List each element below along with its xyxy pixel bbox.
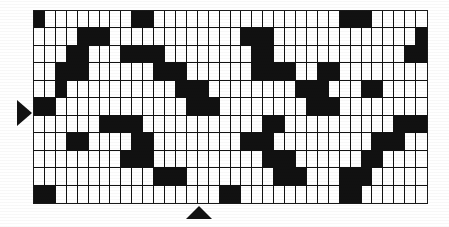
- grid-cell: [110, 116, 121, 133]
- grid-cell: [100, 28, 111, 45]
- grid-cell: [56, 46, 67, 63]
- grid-cell: [34, 98, 45, 115]
- grid-cell: [198, 81, 209, 98]
- grid-cell: [285, 168, 296, 185]
- grid-cell: [165, 186, 176, 203]
- grid-cell: [67, 11, 78, 28]
- grid-cell: [296, 133, 307, 150]
- grid-cell: [405, 186, 416, 203]
- grid-cell: [274, 11, 285, 28]
- grid-cell: [56, 133, 67, 150]
- grid-cell: [318, 116, 329, 133]
- grid-cell: [362, 186, 373, 203]
- grid-cell: [329, 151, 340, 168]
- column-pointer-triangle-icon: [186, 206, 212, 219]
- grid-cell: [296, 63, 307, 80]
- grid-cell: [121, 81, 132, 98]
- grid-cell: [100, 98, 111, 115]
- grid-cell: [45, 11, 56, 28]
- grid-cell: [132, 28, 143, 45]
- grid-cell: [263, 63, 274, 80]
- grid-cell: [252, 186, 263, 203]
- grid-cell: [372, 11, 383, 28]
- grid-cell: [285, 116, 296, 133]
- grid-cell: [296, 81, 307, 98]
- grid-cell: [132, 168, 143, 185]
- grid-cell: [351, 151, 362, 168]
- grid-cell: [143, 98, 154, 115]
- grid-cell: [121, 98, 132, 115]
- grid-cell: [56, 81, 67, 98]
- grid-cell: [329, 11, 340, 28]
- grid-cell: [405, 81, 416, 98]
- grid-cell: [198, 133, 209, 150]
- grid-cell: [220, 186, 231, 203]
- grid-cell: [296, 98, 307, 115]
- grid-cell: [220, 81, 231, 98]
- grid-cell: [274, 186, 285, 203]
- grid-cell: [165, 98, 176, 115]
- grid-cell: [285, 81, 296, 98]
- grid-cell: [132, 46, 143, 63]
- grid-cell: [56, 63, 67, 80]
- grid-cell: [110, 168, 121, 185]
- grid-cell: [372, 168, 383, 185]
- grid-cell: [100, 116, 111, 133]
- grid-cell: [241, 133, 252, 150]
- grid-cell: [187, 116, 198, 133]
- grid-cell: [362, 81, 373, 98]
- grid-cell: [100, 151, 111, 168]
- grid-cell: [56, 98, 67, 115]
- grid-cell: [362, 168, 373, 185]
- grid-cell: [198, 28, 209, 45]
- grid-cell: [110, 133, 121, 150]
- grid-cell: [296, 186, 307, 203]
- grid-cell: [176, 46, 187, 63]
- grid-cell: [351, 28, 362, 45]
- grid-cell: [34, 63, 45, 80]
- grid-cell: [318, 186, 329, 203]
- grid-cell: [198, 11, 209, 28]
- grid-cell: [34, 81, 45, 98]
- grid-cell: [56, 151, 67, 168]
- grid-cell: [78, 98, 89, 115]
- grid-cell: [274, 168, 285, 185]
- grid-cell: [56, 11, 67, 28]
- grid-cell: [307, 168, 318, 185]
- grid-cell: [252, 133, 263, 150]
- grid-cell: [154, 11, 165, 28]
- grid-cell: [67, 98, 78, 115]
- grid-cell: [154, 63, 165, 80]
- grid-cell: [296, 46, 307, 63]
- grid-cell: [100, 168, 111, 185]
- grid-cell: [45, 151, 56, 168]
- grid-cell: [296, 151, 307, 168]
- grid-cell: [383, 11, 394, 28]
- grid-cell: [121, 168, 132, 185]
- grid-cell: [89, 186, 100, 203]
- grid-cell: [143, 186, 154, 203]
- grid-cell: [372, 63, 383, 80]
- grid-cell: [416, 46, 427, 63]
- grid-cell: [405, 98, 416, 115]
- grid-cell: [165, 28, 176, 45]
- grid-cell: [67, 28, 78, 45]
- grid-cell: [351, 46, 362, 63]
- grid-cell: [252, 116, 263, 133]
- grid-cell: [56, 168, 67, 185]
- grid-cell: [121, 151, 132, 168]
- grid-cell: [165, 11, 176, 28]
- grid-cell: [34, 133, 45, 150]
- grid-cell: [383, 63, 394, 80]
- grid-cell: [351, 116, 362, 133]
- grid-cell: [394, 116, 405, 133]
- grid-cell: [274, 151, 285, 168]
- grid-cell: [89, 81, 100, 98]
- grid-cell: [383, 116, 394, 133]
- grid-cell: [154, 116, 165, 133]
- grid-cell: [318, 46, 329, 63]
- grid-cell: [263, 11, 274, 28]
- grid-cell: [307, 81, 318, 98]
- grid-cell: [209, 28, 220, 45]
- grid-cell: [231, 81, 242, 98]
